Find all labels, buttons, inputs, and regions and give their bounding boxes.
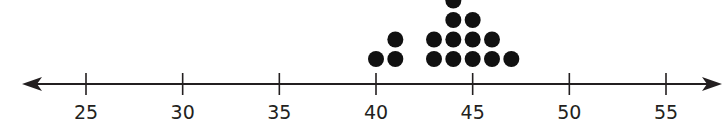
data-dot: [426, 32, 442, 48]
tick-label: 40: [364, 101, 388, 123]
data-dot: [465, 12, 481, 28]
tick-label: 25: [74, 101, 98, 123]
tick-label: 30: [171, 101, 195, 123]
data-dot: [445, 0, 461, 9]
data-dot: [387, 32, 403, 48]
axis-ticks: 25303540455055: [74, 73, 678, 123]
tick-label: 50: [557, 101, 581, 123]
data-dot: [465, 32, 481, 48]
data-dot: [368, 51, 384, 67]
tick-label: 55: [654, 101, 678, 123]
number-line-axis: [22, 77, 722, 91]
data-dot: [445, 51, 461, 67]
data-dot: [387, 51, 403, 67]
data-dot: [445, 12, 461, 28]
data-dot: [503, 51, 519, 67]
tick-label: 35: [267, 101, 291, 123]
data-dot: [445, 32, 461, 48]
dot-plot: 25303540455055: [0, 0, 722, 131]
data-dot: [426, 51, 442, 67]
data-dot: [465, 51, 481, 67]
tick-label: 45: [461, 101, 485, 123]
data-dots: [368, 0, 519, 67]
data-dot: [484, 51, 500, 67]
data-dot: [484, 32, 500, 48]
